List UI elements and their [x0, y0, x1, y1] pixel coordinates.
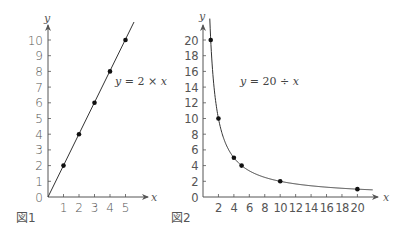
y-tick-label: 2 — [35, 159, 43, 173]
y-tick-label: 8 — [35, 65, 43, 79]
data-point — [92, 101, 97, 106]
data-point — [61, 163, 66, 168]
chart-2: 2468101214161820 02468101214161820 x y y… — [171, 10, 390, 225]
x-tick-label: 4 — [106, 201, 114, 215]
data-point — [77, 132, 82, 137]
x-tick-label: 20 — [351, 201, 365, 215]
y-tick-label: 2 — [191, 175, 198, 189]
y-tick-label: 9 — [35, 49, 43, 63]
y-tick-label: 1 — [35, 175, 43, 189]
data-point — [232, 155, 237, 160]
y-tick-label: 14 — [184, 81, 198, 95]
chart2-curve — [210, 19, 373, 190]
chart2-x-axis-label: x — [383, 191, 390, 204]
x-tick-label: 4 — [230, 201, 237, 215]
data-point — [239, 163, 244, 168]
chart1-y-axis-label: y — [43, 12, 51, 25]
x-tick-label: 5 — [122, 201, 130, 215]
x-tick-label: 18 — [335, 201, 349, 215]
chart1-equation: y = 2 × x — [114, 75, 168, 88]
y-tick-label: 20 — [184, 34, 198, 48]
y-tick-label: 10 — [28, 34, 43, 48]
y-tick-label: 0 — [191, 191, 198, 205]
y-tick-label: 7 — [35, 81, 43, 95]
x-tick-label: 16 — [320, 201, 334, 215]
chart1-caption: 図1 — [16, 211, 36, 225]
y-tick-label: 5 — [35, 112, 43, 126]
y-tick-label: 4 — [191, 159, 198, 173]
x-tick-label: 14 — [304, 201, 318, 215]
x-tick-label: 10 — [273, 201, 287, 215]
chart1-x-axis-label: x — [151, 191, 158, 204]
y-tick-label: 3 — [35, 143, 43, 157]
charts-figure: 12345 012345678910 x y y = 2 × x 図1 2468… — [0, 0, 408, 236]
x-tick-label: 1 — [60, 201, 68, 215]
chart2-y-axis-label: y — [198, 10, 206, 23]
x-tick-label: 3 — [91, 201, 99, 215]
chart2-data-points — [208, 38, 359, 192]
chart2-equation: y = 20 ÷ x — [239, 75, 300, 88]
data-point — [208, 38, 213, 43]
y-tick-label: 8 — [191, 128, 198, 142]
data-point — [355, 187, 360, 192]
chart-1: 12345 012345678910 x y y = 2 × x 図1 — [16, 12, 168, 225]
chart1-data-points — [61, 38, 128, 168]
x-tick-label: 8 — [261, 201, 268, 215]
data-point — [278, 179, 283, 184]
y-tick-label: 12 — [184, 96, 198, 110]
data-point — [216, 116, 221, 121]
x-tick-label: 12 — [289, 201, 303, 215]
chart2-caption: 図2 — [171, 211, 191, 225]
data-point — [123, 38, 128, 43]
x-tick-label: 6 — [246, 201, 253, 215]
x-tick-label: 2 — [75, 201, 83, 215]
y-tick-label: 6 — [35, 96, 43, 110]
y-tick-label: 16 — [184, 65, 198, 79]
y-tick-label: 4 — [35, 128, 43, 142]
y-tick-label: 10 — [184, 112, 198, 126]
chart1-line — [48, 22, 134, 197]
y-tick-label: 0 — [35, 191, 43, 205]
y-tick-label: 6 — [191, 143, 198, 157]
y-tick-label: 18 — [184, 49, 198, 63]
x-tick-label: 2 — [215, 201, 222, 215]
data-point — [108, 69, 113, 74]
